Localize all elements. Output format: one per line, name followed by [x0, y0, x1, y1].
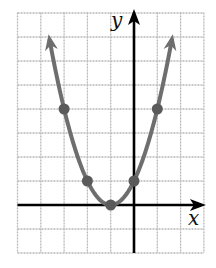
data-point — [82, 176, 93, 187]
grid-lines — [18, 13, 204, 254]
x-axis-label: x — [188, 206, 199, 230]
parabola-graph: y x — [0, 0, 216, 268]
data-point — [105, 200, 116, 211]
y-axis-label: y — [110, 8, 123, 32]
data-point — [129, 176, 140, 187]
axes — [18, 9, 206, 253]
data-point — [59, 104, 70, 115]
data-point — [152, 104, 163, 115]
